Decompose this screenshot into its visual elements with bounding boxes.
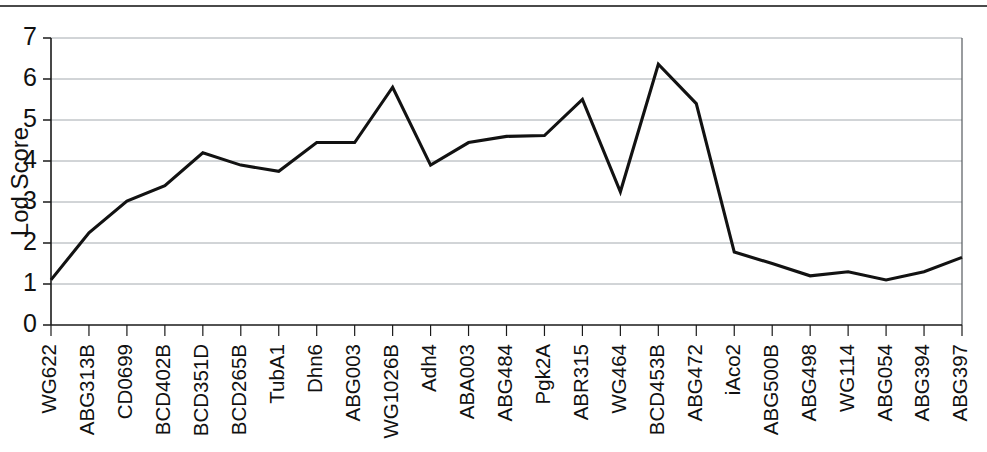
y-tick-label-7: 7 — [23, 22, 37, 50]
y-axis-title-label: Lod Score — [6, 127, 33, 236]
x-tick-label-11: ABA003 — [455, 344, 478, 419]
y-axis-group — [43, 38, 51, 325]
x-tick-label-0: WG622 — [37, 344, 60, 414]
x-tick-label-2: CD0699 — [113, 344, 136, 419]
x-tick-label-20: ABG498 — [797, 344, 820, 422]
x-tick-label-1: ABG313B — [75, 344, 98, 435]
y-tick-label-1: 1 — [23, 268, 37, 296]
x-tick-label-13: Pgk2A — [531, 344, 554, 405]
x-tick-label-3: BCD402B — [151, 344, 174, 435]
x-tick-label-22: ABG054 — [873, 344, 896, 422]
x-tick-label-6: TubA1 — [265, 344, 288, 404]
x-tick-label-12: ABG484 — [493, 344, 516, 422]
x-axis-group — [51, 325, 962, 336]
x-tick-label-21: WG114 — [835, 344, 858, 412]
series-lod-score — [51, 64, 962, 280]
y-tick-label-6: 6 — [23, 63, 37, 91]
y-tick-label-0: 0 — [23, 309, 37, 337]
x-tick-label-4: BCD351D — [189, 344, 212, 436]
x-tick-label-7: Dhn6 — [303, 344, 326, 393]
x-tick-label-5: BCD265B — [227, 344, 250, 435]
data-series-group — [51, 64, 962, 280]
x-tick-label-18: iAco2 — [721, 344, 744, 395]
x-tick-label-10: Adh4 — [417, 344, 440, 392]
x-tick-label-16: BCD453B — [645, 344, 668, 435]
y-axis-title: Lod Score — [6, 127, 33, 236]
x-tick-label-14: ABR315 — [569, 344, 592, 420]
x-tick-label-24: ABG397 — [948, 344, 971, 422]
x-tick-label-8: ABG003 — [341, 344, 364, 422]
gridlines-group — [51, 38, 962, 284]
chart-figure: 01234567 WG622ABG313BCD0699BCD402BBCD351… — [0, 0, 987, 452]
x-tick-label-15: WG464 — [607, 344, 630, 414]
x-tick-label-9: WG1026B — [379, 344, 402, 439]
x-tick-label-17: ABG472 — [683, 344, 706, 422]
x-tick-label-23: ABG394 — [910, 344, 933, 422]
x-axis-tick-labels: WG622ABG313BCD0699BCD402BBCD351DBCD265BT… — [37, 344, 971, 439]
lod-score-line-chart: 01234567 WG622ABG313BCD0699BCD402BBCD351… — [0, 0, 987, 452]
x-tick-label-19: ABG500B — [759, 344, 782, 435]
